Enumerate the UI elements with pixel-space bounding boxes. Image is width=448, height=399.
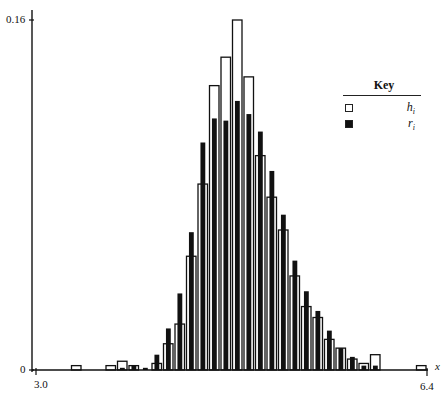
legend-title: Key [343, 78, 421, 96]
bar-r [338, 348, 343, 370]
bar-r [246, 114, 251, 370]
bar-r [223, 121, 228, 370]
x-axis-label: x [435, 360, 440, 372]
hollow-swatch-icon [345, 104, 353, 112]
bar-r [189, 232, 194, 370]
filled-swatch-icon [345, 120, 353, 128]
legend-item-h: hi [343, 100, 421, 116]
bar-r [350, 357, 355, 370]
bar-r [315, 311, 320, 370]
y-tick-label-max: 0.16 [6, 13, 25, 25]
bar-r [292, 261, 297, 370]
bar-r [281, 215, 286, 370]
bar-r [327, 331, 332, 370]
bar-r [177, 293, 182, 370]
y-tick-label-zero: 0 [20, 363, 26, 375]
x-tick-label-max: 6.4 [420, 380, 434, 392]
legend-sub-r: i [413, 123, 415, 132]
bar-r [269, 171, 274, 370]
bar-r [200, 143, 205, 371]
bar-r [166, 328, 171, 370]
x-tick-label-min: 3.0 [34, 378, 48, 390]
bar-r [154, 355, 159, 370]
legend: Key hi ri [343, 78, 421, 132]
bar-r [235, 101, 240, 370]
bar-r [212, 118, 217, 370]
histogram-chart [0, 0, 448, 399]
bars-group [72, 20, 427, 370]
bar-r [304, 291, 309, 370]
legend-item-r: ri [343, 116, 421, 132]
bar-r [258, 132, 263, 370]
